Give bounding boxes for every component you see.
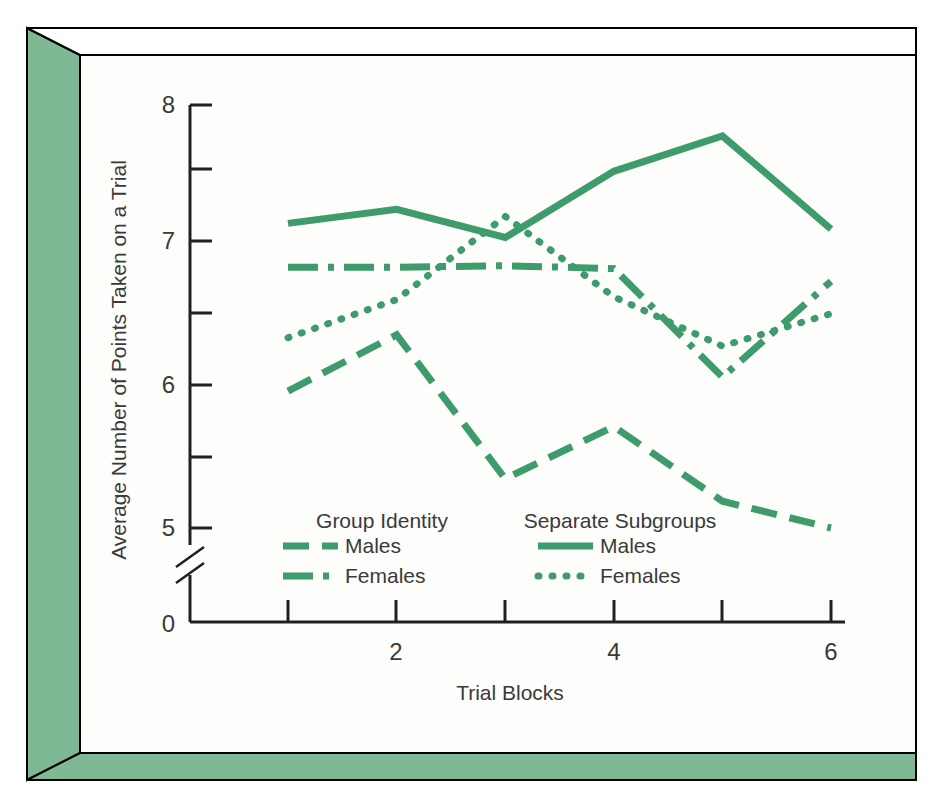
x-tick-label-2: 2 [389,638,402,665]
frame-inner-rect [80,55,916,753]
legend-label-separate-subgroups-males: Males [600,534,656,557]
y-tick-label-5: 5 [162,514,175,541]
x-tick-label-6: 6 [824,638,837,665]
frame-bottom-panel [27,753,916,780]
frame-top-panel [27,28,916,55]
legend-label-separate-subgroups-females: Females [600,564,681,587]
y-tick-label-7: 7 [162,227,175,254]
figure-stage: 8 7 6 5 0 2 4 6 Average Number of Points… [0,0,947,793]
y-tick-label-0: 0 [162,610,175,637]
legend-heading-separate-subgroups: Separate Subgroups [524,509,717,532]
decorative-3d-frame [27,28,916,780]
y-axis-title: Average Number of Points Taken on a Tria… [107,160,130,560]
legend-label-group-identity-males: Males [345,534,401,557]
y-tick-label-6: 6 [162,371,175,398]
line-chart-figure: 8 7 6 5 0 2 4 6 Average Number of Points… [0,0,947,793]
x-tick-label-4: 4 [607,638,620,665]
legend-heading-group-identity: Group Identity [316,509,448,532]
legend-label-group-identity-females: Females [345,564,426,587]
y-tick-label-8: 8 [162,91,175,118]
frame-left-panel [27,28,80,780]
x-axis-title: Trial Blocks [456,681,564,704]
